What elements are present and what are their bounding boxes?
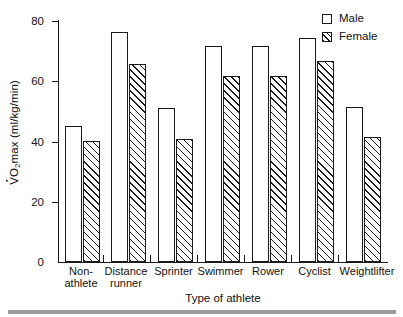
x-category-label-weightlifter-line1: Weightlifter bbox=[336, 266, 398, 278]
x-category-label-cyclist-line1: Cyclist bbox=[291, 266, 338, 278]
x-tick-mark-2 bbox=[150, 255, 151, 263]
bar-female-cyclist bbox=[317, 61, 334, 262]
x-category-label-non-athlete: Non- athlete bbox=[58, 266, 104, 289]
y-tick-label-0: 0 bbox=[18, 257, 44, 269]
x-axis-title: Type of athlete bbox=[58, 292, 388, 304]
x-tick-mark-1 bbox=[103, 255, 104, 263]
x-category-label-distance-runner-line1: Distance bbox=[101, 266, 151, 278]
bar-male-distance-runner bbox=[111, 32, 128, 263]
x-category-label-swimmer: Swimmer bbox=[196, 266, 245, 278]
legend-label-male: Male bbox=[339, 13, 364, 25]
bar-female-swimmer bbox=[223, 76, 240, 262]
legend-item-female: Female bbox=[322, 28, 400, 46]
y-axis-title-wrapper: VO2max (ml/kg/min) bbox=[0, 0, 30, 265]
legend-item-male: Male bbox=[322, 10, 400, 28]
y-axis-title: VO2max (ml/kg/min) bbox=[9, 80, 22, 185]
v-dot-glyph: V bbox=[9, 177, 21, 185]
bar-male-rower bbox=[252, 46, 269, 262]
legend-swatch-male-icon bbox=[322, 14, 332, 24]
x-category-label-swimmer-line1: Swimmer bbox=[196, 266, 245, 278]
bar-female-rower bbox=[270, 76, 287, 262]
chart-figure: VO2max (ml/kg/min) 80 60 40 20 0 Non- at… bbox=[0, 0, 403, 317]
page-edge-artifact bbox=[8, 310, 396, 314]
x-tick-mark-4 bbox=[244, 255, 245, 263]
bar-male-swimmer bbox=[205, 46, 222, 262]
x-tick-mark-6 bbox=[338, 255, 339, 263]
x-category-label-distance-runner: Distance runner bbox=[101, 266, 151, 289]
bar-male-sprinter bbox=[158, 108, 175, 262]
legend-swatch-female-icon bbox=[322, 32, 332, 42]
x-category-label-sprinter: Sprinter bbox=[150, 266, 197, 278]
bar-female-non-athlete bbox=[83, 141, 100, 262]
x-category-label-weightlifter: Weightlifter bbox=[336, 266, 398, 278]
y-tick-label-40: 40 bbox=[18, 137, 44, 149]
bar-female-distance-runner bbox=[129, 64, 146, 262]
bar-male-cyclist bbox=[299, 38, 316, 262]
chart-legend: Male Female bbox=[322, 10, 400, 46]
bar-female-sprinter bbox=[176, 139, 193, 262]
x-category-label-distance-runner-line2: runner bbox=[101, 278, 151, 290]
x-category-label-cyclist: Cyclist bbox=[291, 266, 338, 278]
x-category-label-non-athlete-line1: Non- bbox=[58, 266, 104, 278]
x-category-label-non-athlete-line2: athlete bbox=[58, 278, 104, 290]
y-tick-label-20: 20 bbox=[18, 197, 44, 209]
bar-male-weightlifter bbox=[346, 107, 363, 262]
bar-female-weightlifter bbox=[364, 137, 381, 262]
y-tick-label-60: 60 bbox=[18, 76, 44, 88]
x-tick-mark-3 bbox=[197, 255, 198, 263]
y-axis-line bbox=[58, 20, 59, 263]
x-category-label-rower-line1: Rower bbox=[245, 266, 291, 278]
bar-male-non-athlete bbox=[65, 126, 82, 263]
legend-label-female: Female bbox=[339, 31, 377, 43]
y-tick-label-80: 80 bbox=[18, 16, 44, 28]
x-category-label-rower: Rower bbox=[245, 266, 291, 278]
x-category-label-sprinter-line1: Sprinter bbox=[150, 266, 197, 278]
x-tick-mark-5 bbox=[291, 255, 292, 263]
x-tick-mark-0 bbox=[58, 255, 59, 263]
